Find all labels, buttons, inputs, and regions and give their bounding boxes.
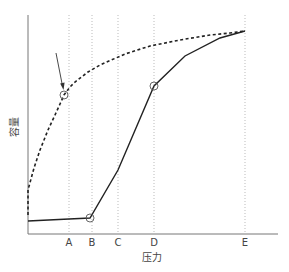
tick-label-e: E <box>242 237 248 248</box>
tick-label-c: C <box>115 237 122 248</box>
tick-label-b: B <box>89 237 96 248</box>
solid-curve <box>28 31 245 221</box>
arrow-icon <box>56 53 65 90</box>
x-axis-title: 压力 <box>142 251 162 263</box>
tick-label-d: D <box>150 237 158 248</box>
chart-canvas: A B C D E 压力 容量 <box>0 0 289 272</box>
grid-lines <box>69 15 245 234</box>
dashed-curve <box>28 31 245 215</box>
y-axis-title: 容量 <box>8 117 20 137</box>
tick-label-a: A <box>66 237 73 248</box>
